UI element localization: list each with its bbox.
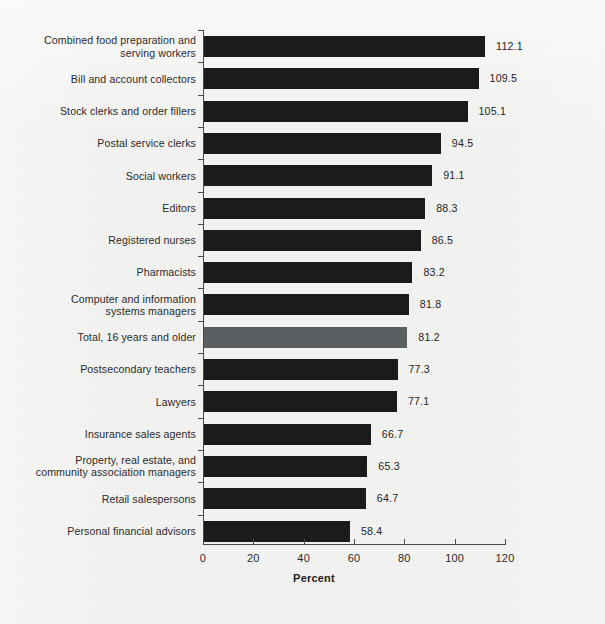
x-axis-tick-label: 20 xyxy=(247,552,260,564)
horizontal-bar-chart: Combined food preparation and serving wo… xyxy=(0,0,605,624)
category-label: Personal financial advisors xyxy=(0,525,196,537)
bar xyxy=(203,456,367,477)
x-axis-tick-label: 40 xyxy=(297,552,310,564)
x-axis-tick xyxy=(505,539,506,545)
x-axis-tick-label: 60 xyxy=(348,552,361,564)
bar xyxy=(203,262,412,283)
bar-value-label: 91.1 xyxy=(443,165,464,186)
x-axis-tick xyxy=(404,539,405,545)
x-axis-tick-label: 80 xyxy=(398,552,411,564)
bar xyxy=(203,36,485,57)
bar xyxy=(203,391,397,412)
category-label: Social workers xyxy=(0,170,196,182)
bar-value-label: 94.5 xyxy=(452,133,473,154)
category-label: Combined food preparation and serving wo… xyxy=(0,34,196,59)
category-label: Postal service clerks xyxy=(0,137,196,149)
bar xyxy=(203,230,421,251)
bar xyxy=(203,294,409,315)
bar xyxy=(203,198,425,219)
bar-value-label: 81.2 xyxy=(418,327,439,348)
bar-value-label: 83.2 xyxy=(423,262,444,283)
bar-value-label: 64.7 xyxy=(377,488,398,509)
category-label: Editors xyxy=(0,202,196,214)
category-label: Registered nurses xyxy=(0,234,196,246)
x-axis-tick-label: 120 xyxy=(496,552,515,564)
x-axis-tick xyxy=(455,539,456,545)
x-axis-tick-label: 100 xyxy=(445,552,464,564)
category-label: Bill and account collectors xyxy=(0,73,196,85)
bar-value-label: 77.1 xyxy=(408,391,429,412)
bar-value-label: 86.5 xyxy=(432,230,453,251)
bar-value-label: 77.3 xyxy=(409,359,430,380)
bar xyxy=(203,488,366,509)
category-label: Pharmacists xyxy=(0,266,196,278)
x-axis-tick xyxy=(203,539,204,545)
bar-value-label: 58.4 xyxy=(361,521,382,542)
bar-value-label: 65.3 xyxy=(378,456,399,477)
category-label: Insurance sales agents xyxy=(0,428,196,440)
category-axis-spine xyxy=(203,30,204,544)
category-label: Postsecondary teachers xyxy=(0,363,196,375)
bar-value-label: 81.8 xyxy=(420,294,441,315)
bar xyxy=(203,101,468,122)
bar xyxy=(203,68,479,89)
bar-highlight xyxy=(203,327,407,348)
x-axis-tick xyxy=(354,539,355,545)
x-axis-tick xyxy=(253,539,254,545)
x-axis-title: Percent xyxy=(293,572,335,584)
bar xyxy=(203,165,432,186)
bar-value-label: 105.1 xyxy=(479,101,507,122)
bar xyxy=(203,133,441,154)
category-label: Lawyers xyxy=(0,396,196,408)
category-label: Total, 16 years and older xyxy=(0,331,196,343)
category-label: Stock clerks and order fillers xyxy=(0,105,196,117)
bar xyxy=(203,424,371,445)
category-label: Property, real estate, and community ass… xyxy=(0,454,196,479)
category-label: Retail salespersons xyxy=(0,493,196,505)
bar xyxy=(203,359,398,380)
bar-value-label: 66.7 xyxy=(382,424,403,445)
bar-value-label: 112.1 xyxy=(496,36,523,57)
bar-value-label: 109.5 xyxy=(490,68,518,89)
x-axis-tick-label: 0 xyxy=(200,552,206,564)
bar-value-label: 88.3 xyxy=(436,198,457,219)
category-label: Computer and information systems manager… xyxy=(0,293,196,318)
bar xyxy=(203,521,350,542)
x-axis-tick xyxy=(304,539,305,545)
